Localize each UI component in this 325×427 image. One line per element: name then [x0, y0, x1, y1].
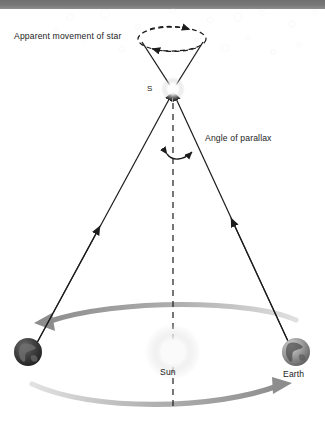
- background-star-icon: [297, 43, 301, 47]
- sun-core: [161, 340, 186, 365]
- background-star-icon: [222, 45, 229, 52]
- background-star-icon: [207, 17, 213, 23]
- background-star-icon: [158, 55, 162, 59]
- background-star-icon: [234, 13, 242, 21]
- background-star-icon: [101, 10, 110, 19]
- apparent-movement-path: [138, 26, 206, 51]
- orbit-arrow-bottom: [32, 384, 280, 404]
- background-star-icon: [135, 24, 140, 29]
- earth-left-sphere: [14, 338, 42, 366]
- label-sun: Sun: [160, 367, 176, 377]
- background-star-icon: [260, 11, 265, 16]
- star-marker: [161, 77, 185, 101]
- background-star-icon: [171, 9, 175, 13]
- earth-right: [282, 338, 310, 366]
- diagram-svg: [0, 0, 325, 427]
- background-star-icon: [67, 14, 73, 20]
- background-star-icon: [271, 50, 276, 55]
- label-angle-of-parallax: Angle of parallax: [205, 133, 272, 143]
- background-star-icon: [289, 21, 295, 27]
- orbit-arrow-bottom-head: [272, 377, 292, 394]
- label-apparent-movement: Apparent movement of star: [14, 31, 121, 41]
- apparent-motion-ellipse: [138, 27, 206, 51]
- earth-left: [14, 338, 42, 366]
- label-star-marker: S: [147, 84, 153, 93]
- sight-line-right-segment: [231, 218, 293, 352]
- background-star-icon: [246, 36, 250, 40]
- label-earth: Earth: [283, 369, 304, 379]
- star-core: [169, 86, 177, 93]
- apparent-motion-arrow-right: [150, 26, 190, 29]
- background-star-icon: [119, 46, 124, 51]
- background-star-icon: [313, 10, 317, 14]
- parallax-diagram-canvas: Apparent movement of star Angle of paral…: [0, 0, 325, 427]
- orbit-arrow-top: [47, 305, 296, 323]
- sight-line-left-segment: [32, 226, 100, 352]
- parallax-arc-path: [167, 152, 192, 159]
- background-star-icon: [194, 38, 198, 42]
- parallax-angle-arc: [167, 152, 192, 159]
